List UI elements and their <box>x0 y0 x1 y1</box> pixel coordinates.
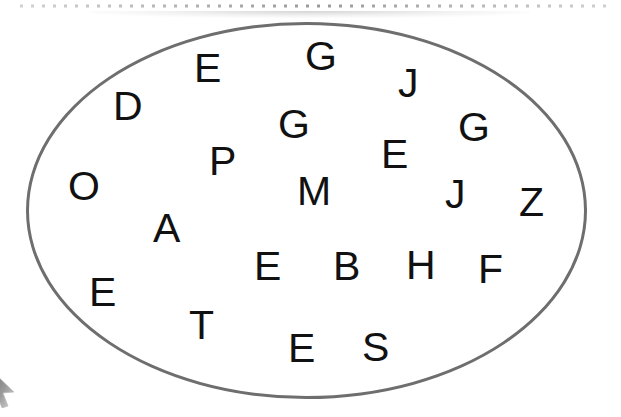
rule-dot <box>449 5 452 8</box>
rule-dot <box>152 5 155 8</box>
rule-dot <box>339 5 342 8</box>
rule-dot <box>64 5 67 8</box>
rule-dot <box>284 5 287 8</box>
rule-dot <box>405 5 408 8</box>
rule-dot <box>350 5 353 8</box>
letter-d[interactable]: D <box>113 86 143 127</box>
rule-dot <box>383 5 386 8</box>
rule-dot <box>251 5 254 8</box>
letter-g[interactable]: G <box>305 36 337 77</box>
rule-dot <box>493 5 496 8</box>
letter-e[interactable]: E <box>89 272 116 313</box>
rule-dot <box>218 5 221 8</box>
rule-dot <box>31 5 34 8</box>
letter-b[interactable]: B <box>333 246 360 287</box>
rule-dot <box>207 5 210 8</box>
rule-dot <box>372 5 375 8</box>
rule-dot <box>108 5 111 8</box>
rule-dot <box>174 5 177 8</box>
letter-e[interactable]: E <box>381 134 408 175</box>
rule-dot <box>185 5 188 8</box>
letter-e[interactable]: E <box>254 246 281 287</box>
rule-dot <box>416 5 419 8</box>
rule-dot <box>75 5 78 8</box>
rule-dot <box>328 5 331 8</box>
letter-z[interactable]: Z <box>519 182 544 223</box>
letter-p[interactable]: P <box>209 141 236 182</box>
rule-dot <box>548 5 551 8</box>
rule-dot <box>229 5 232 8</box>
rule-dot <box>438 5 441 8</box>
letter-t[interactable]: T <box>189 305 214 346</box>
rule-dot <box>119 5 122 8</box>
letter-h[interactable]: H <box>406 245 436 286</box>
rule-dot <box>482 5 485 8</box>
mouse-cursor-icon <box>0 368 24 408</box>
rule-dot <box>460 5 463 8</box>
rule-dot <box>20 5 23 8</box>
rule-dot <box>42 5 45 8</box>
letter-o[interactable]: O <box>68 166 100 207</box>
letter-f[interactable]: F <box>478 249 503 290</box>
rule-dot <box>86 5 89 8</box>
rule-dot <box>570 5 573 8</box>
top-edge-shadow <box>90 11 530 18</box>
rule-dot <box>141 5 144 8</box>
rule-dot <box>394 5 397 8</box>
rule-dot <box>559 5 562 8</box>
letter-search-canvas: DEGJGGPEOMJZAEBHFETES <box>0 0 621 417</box>
rule-dot <box>53 5 56 8</box>
rule-dot <box>295 5 298 8</box>
letter-g[interactable]: G <box>458 107 490 148</box>
rule-dot <box>163 5 166 8</box>
letter-m[interactable]: M <box>297 171 331 212</box>
rule-dot <box>317 5 320 8</box>
rule-dot <box>306 5 309 8</box>
rule-dot <box>130 5 133 8</box>
dotted-rule <box>0 0 621 14</box>
rule-dot <box>262 5 265 8</box>
rule-dot <box>537 5 540 8</box>
rule-dot <box>97 5 100 8</box>
rule-dot <box>361 5 364 8</box>
letter-s[interactable]: S <box>362 327 389 368</box>
letter-e[interactable]: E <box>288 328 315 369</box>
rule-dot <box>603 5 606 8</box>
rule-dot <box>427 5 430 8</box>
rule-dot <box>240 5 243 8</box>
letter-e[interactable]: E <box>194 48 221 89</box>
letter-j[interactable]: J <box>445 174 466 215</box>
rule-dot <box>581 5 584 8</box>
letter-j[interactable]: J <box>398 63 419 104</box>
rule-dot <box>504 5 507 8</box>
rule-dot <box>273 5 276 8</box>
rule-dot <box>471 5 474 8</box>
rule-dot <box>515 5 518 8</box>
rule-dot <box>196 5 199 8</box>
rule-dot <box>592 5 595 8</box>
letter-a[interactable]: A <box>153 208 180 249</box>
letter-g[interactable]: G <box>278 104 310 145</box>
rule-dot <box>526 5 529 8</box>
